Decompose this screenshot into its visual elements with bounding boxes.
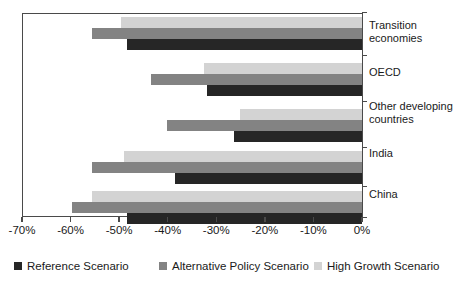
bar-reference-scenario	[234, 131, 362, 142]
category-label-line2: economies	[369, 32, 422, 45]
x-axis-tick-label: -70%	[9, 224, 36, 236]
category-label-transition-economies: Transition economies	[369, 19, 422, 44]
x-axis-tick-label: 0%	[354, 224, 371, 236]
bar-alternative-policy-scenario	[167, 120, 362, 131]
bar-alternative-policy-scenario	[92, 28, 362, 39]
bar-group	[22, 109, 362, 142]
legend-label: High Growth Scenario	[327, 260, 440, 272]
bar-group	[22, 191, 362, 224]
bar-alternative-policy-scenario	[92, 162, 362, 173]
category-label-line1: India	[369, 147, 393, 160]
category-label-india: India	[369, 147, 393, 160]
category-tick	[362, 12, 367, 13]
category-tick	[362, 101, 367, 102]
x-axis-tick-label: -40%	[154, 224, 181, 236]
x-axis-tick	[70, 217, 71, 222]
category-label-line1: Transition	[369, 19, 422, 32]
x-axis-tick	[21, 217, 22, 222]
x-axis-tick-label: -10%	[300, 224, 327, 236]
bar-alternative-policy-scenario	[151, 74, 362, 85]
x-axis-tick-label: -50%	[106, 224, 133, 236]
bar-group	[22, 17, 362, 50]
category-label-line2: countries	[369, 113, 453, 126]
category-label-oecd: OECD	[369, 66, 401, 79]
bar-high-growth-scenario	[124, 151, 362, 162]
bar-high-growth-scenario	[121, 17, 362, 28]
x-axis-tick	[167, 217, 168, 222]
x-axis-tick-label: -60%	[57, 224, 84, 236]
category-label-line1: OECD	[369, 66, 401, 79]
legend-item[interactable]: Alternative Policy Scenario	[159, 260, 309, 272]
category-tick	[362, 186, 367, 187]
bar-group	[22, 151, 362, 184]
legend-item[interactable]: Reference Scenario	[14, 260, 129, 272]
x-axis-tick	[118, 217, 119, 222]
x-axis-tick	[216, 217, 217, 222]
legend-label: Reference Scenario	[27, 260, 129, 272]
bar-high-growth-scenario	[92, 191, 362, 202]
category-label-other-developing-countries: Other developing countries	[369, 100, 453, 125]
category-tick	[362, 217, 367, 218]
legend-swatch-icon	[14, 262, 22, 270]
bar-reference-scenario	[175, 173, 362, 184]
x-axis-tick-label: -20%	[251, 224, 278, 236]
bar-reference-scenario	[127, 213, 362, 224]
bar-reference-scenario	[127, 39, 362, 50]
x-axis-tick	[313, 217, 314, 222]
bar-group	[22, 63, 362, 96]
category-tick	[362, 147, 367, 148]
category-label-china: China	[369, 188, 398, 201]
category-label-line1: Other developing	[369, 100, 453, 113]
bar-high-growth-scenario	[240, 109, 362, 120]
x-axis-tick	[264, 217, 265, 222]
legend-label: Alternative Policy Scenario	[172, 260, 309, 272]
x-axis-tick-label: -30%	[203, 224, 230, 236]
category-tick	[362, 55, 367, 56]
bar-high-growth-scenario	[204, 63, 362, 74]
bar-reference-scenario	[207, 85, 362, 96]
bar-alternative-policy-scenario	[72, 202, 362, 213]
category-label-line1: China	[369, 188, 398, 201]
legend-swatch-icon	[314, 262, 322, 270]
grouped-bar-chart: Transition economies OECD Other developi…	[0, 0, 472, 285]
chart-legend: Reference ScenarioAlternative Policy Sce…	[0, 258, 472, 278]
legend-item[interactable]: High Growth Scenario	[314, 260, 440, 272]
legend-swatch-icon	[159, 262, 167, 270]
x-axis-tick	[361, 217, 362, 222]
